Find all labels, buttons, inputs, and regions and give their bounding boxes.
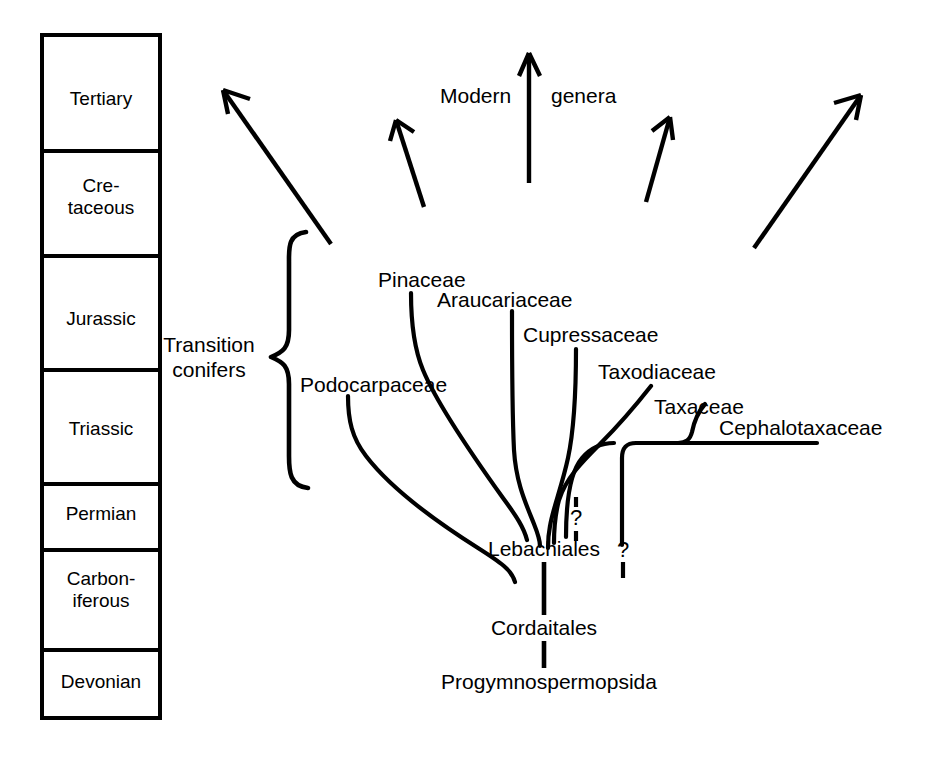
taxon-label-lebachiales: Lebachiales — [488, 537, 600, 560]
brace-curve — [271, 232, 308, 488]
period-label-cretaceous-line1: Cre- — [83, 175, 120, 196]
transition-conifers-bracket: Transition conifers — [163, 232, 308, 488]
taxon-label-podocarpaceae: Podocarpaceae — [300, 373, 447, 396]
period-label-carboniferous-line1: Carbon- — [67, 568, 136, 589]
taxon-label-taxaceae: Taxaceae — [654, 395, 744, 418]
period-label-tertiary: Tertiary — [70, 88, 133, 109]
period-label-jurassic: Jurassic — [66, 308, 136, 329]
modern-genera-arrows: Modern genera — [223, 53, 861, 248]
period-label-devonian: Devonian — [61, 671, 141, 692]
taxon-label-cephalotaxaceae: Cephalotaxaceae — [719, 416, 882, 439]
branch-cephalotaxaceae — [622, 443, 817, 545]
modern-genera-caption-left: Modern — [440, 84, 511, 107]
period-label-carboniferous-line2: iferous — [72, 590, 129, 611]
modern-genera-arrow-1-shaft — [223, 90, 331, 244]
period-label-triassic: Triassic — [69, 418, 134, 439]
bracket-label-line1: Transition — [163, 333, 254, 356]
geological-time-column: Tertiary Cre- taceous Jurassic Triassic … — [42, 35, 160, 718]
period-label-cretaceous-line2: taceous — [68, 197, 135, 218]
phylogeny-figure: Tertiary Cre- taceous Jurassic Triassic … — [0, 0, 925, 759]
taxon-label-taxodiaceae: Taxodiaceae — [598, 360, 716, 383]
taxon-label-cordaitales: Cordaitales — [491, 616, 597, 639]
taxon-label-progymnospermopsida: Progymnospermopsida — [441, 670, 657, 693]
branch-araucariaceae — [512, 311, 540, 546]
phylogeny-canvas: Tertiary Cre- taceous Jurassic Triassic … — [0, 0, 925, 759]
branch-pinaceae — [411, 293, 527, 540]
modern-genera-arrow-4-shaft — [646, 117, 670, 202]
modern-genera-arrow-2-shaft — [396, 120, 424, 207]
uncertainty-mark-2: ? — [617, 537, 629, 562]
modern-genera-arrow-5-shaft — [754, 95, 861, 248]
period-label-permian: Permian — [66, 503, 137, 524]
uncertainty-mark-1: ? — [570, 505, 582, 530]
taxon-label-cupressaceae: Cupressaceae — [523, 323, 658, 346]
bracket-label-line2: conifers — [172, 358, 246, 381]
taxon-label-araucariaceae: Araucariaceae — [437, 288, 572, 311]
modern-genera-caption-right: genera — [551, 84, 617, 107]
